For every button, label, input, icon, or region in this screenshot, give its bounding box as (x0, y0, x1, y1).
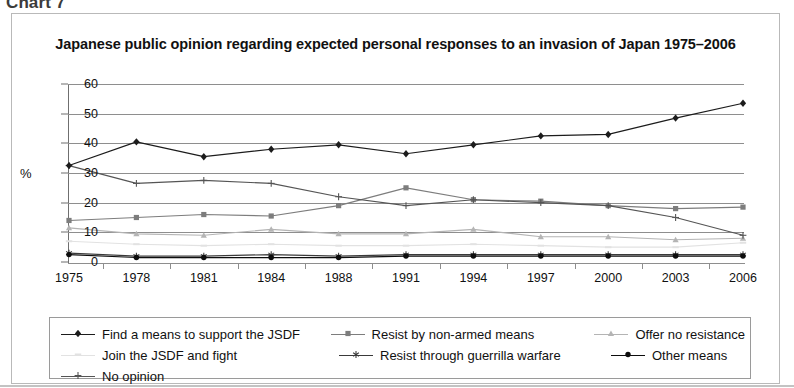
data-point-square (336, 203, 341, 208)
data-point-square (403, 185, 408, 190)
legend-marker-square-icon (331, 328, 365, 342)
page-footer-rule (0, 385, 794, 387)
data-point-circle (403, 253, 408, 258)
x-axis-tick-label: 2003 (662, 271, 690, 285)
legend-grid: Find a means to support the JSDFResist b… (61, 324, 745, 387)
y-axis-tick-mark (61, 262, 68, 263)
data-point-diamond (605, 131, 611, 138)
x-axis-tick-mark (103, 263, 104, 269)
plot-wrapper: % 60504030201001975197819811984198819911… (12, 66, 781, 292)
chart-legend: Find a means to support the JSDFResist b… (49, 317, 751, 379)
legend-item-find-a-means-to-support-the-jsdf[interactable]: Find a means to support the JSDF (61, 324, 331, 345)
data-point-circle (134, 255, 139, 260)
x-axis-tick-label: 1975 (55, 271, 83, 285)
legend-item-join-the-jsdf-and-fight[interactable]: Join the JSDF and fight (61, 345, 339, 366)
y-axis-title: % (20, 166, 32, 181)
x-axis-tick-mark (642, 263, 643, 269)
data-point-diamond (133, 138, 139, 145)
data-point-square (345, 330, 350, 335)
chart-figure-frame: Japanese public opinion regarding expect… (11, 13, 780, 384)
data-point-plus (200, 177, 207, 184)
data-point-circle (606, 253, 611, 258)
data-point-circle (538, 253, 543, 258)
x-axis-tick-mark (507, 263, 508, 269)
data-point-plus (403, 202, 410, 209)
x-axis-tick-mark (709, 263, 710, 269)
x-axis-tick-label: 1994 (459, 271, 487, 285)
data-point-square (269, 213, 274, 218)
legend-item-resist-by-non-armed-means[interactable]: Resist by non-armed means (331, 324, 595, 345)
series-join-the-jsdf-and-fight (66, 241, 746, 247)
series-find-a-means-to-support-the-jsdf (66, 100, 746, 170)
legend-item-resist-through-guerrilla-warfare[interactable]: Resist through guerrilla warfare (339, 345, 611, 366)
series-no-opinion (66, 162, 747, 239)
legend-item-label: Join the JSDF and fight (102, 348, 237, 363)
data-point-circle (740, 253, 745, 258)
legend-item-label: Offer no resistance (635, 327, 745, 342)
legend-item-label: Find a means to support the JSDF (102, 327, 300, 342)
data-point-square (740, 205, 745, 210)
x-axis-tick-mark (238, 263, 239, 269)
legend-item-other-means[interactable]: Other means (611, 345, 727, 366)
x-axis-tick-label: 1997 (527, 271, 555, 285)
data-point-diamond (403, 150, 409, 157)
y-axis-tick-mark (61, 202, 68, 203)
data-point-triangle (608, 330, 614, 336)
x-axis-tick-mark (440, 263, 441, 269)
legend-row: No opinion (61, 366, 745, 387)
y-axis-tick-mark (61, 173, 68, 174)
legend-row: Find a means to support the JSDFResist b… (61, 324, 745, 345)
x-axis-tick-label: 1991 (392, 271, 420, 285)
data-point-diamond (75, 329, 81, 336)
data-point-star (353, 351, 359, 358)
x-axis-tick-label: 1981 (190, 271, 218, 285)
legend-row: Join the JSDF and fightResist through gu… (61, 345, 745, 366)
data-point-circle (625, 351, 630, 356)
x-axis-tick-label: 1984 (257, 271, 285, 285)
y-axis-tick-mark (61, 143, 68, 144)
data-point-diamond (268, 146, 274, 153)
data-point-plus (133, 180, 140, 187)
legend-marker-plus-icon (61, 370, 95, 384)
x-axis-tick-mark (305, 263, 306, 269)
legend-item-label: Resist by non-armed means (372, 327, 535, 342)
data-point-circle (336, 255, 341, 260)
data-point-plus (75, 372, 82, 379)
legend-item-offer-no-resistance[interactable]: Offer no resistance (594, 324, 745, 345)
legend-item-no-opinion[interactable]: No opinion (61, 366, 339, 387)
data-point-diamond (673, 114, 679, 121)
x-axis-tick-label: 1978 (122, 271, 150, 285)
data-point-plus (335, 193, 342, 200)
legend-marker-star-icon (339, 349, 373, 363)
y-axis-tick-mark (61, 84, 68, 85)
legend-item-label: Resist through guerrilla warfare (380, 348, 561, 363)
chart-title: Japanese public opinion regarding expect… (12, 36, 779, 52)
data-point-square (66, 218, 71, 223)
y-axis-tick-mark (61, 232, 68, 233)
figure-number-label: Chart 7 (6, 0, 65, 13)
data-point-plus (268, 180, 275, 187)
data-point-diamond (336, 141, 342, 148)
series-layer (68, 84, 744, 262)
x-axis-tick-label: 1988 (325, 271, 353, 285)
legend-marker-circle-icon (611, 349, 645, 363)
legend-marker-dash-icon (61, 349, 95, 363)
x-axis-tick-label: 2006 (729, 271, 757, 285)
x-axis-tick-mark (575, 263, 576, 269)
x-axis-tick-mark (372, 263, 373, 269)
data-point-circle (471, 253, 476, 258)
legend-item-label: No opinion (102, 369, 164, 384)
x-axis-tick-mark (170, 263, 171, 269)
data-point-circle (269, 255, 274, 260)
data-point-circle (673, 253, 678, 258)
data-point-circle (201, 255, 206, 260)
series-offer-no-resistance (66, 225, 746, 242)
data-point-square (201, 212, 206, 217)
data-point-plus (740, 232, 747, 239)
legend-marker-diamond-icon (61, 328, 95, 342)
data-point-square (134, 215, 139, 220)
data-point-square (673, 206, 678, 211)
legend-marker-triangle-icon (594, 328, 628, 342)
data-point-diamond (201, 153, 207, 160)
x-axis-tick-label: 2000 (594, 271, 622, 285)
